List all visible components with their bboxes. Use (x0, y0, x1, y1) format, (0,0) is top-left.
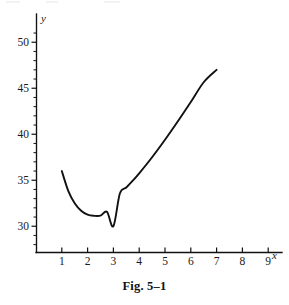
y-axis-label: y (40, 12, 46, 24)
x-tick-label: 4 (136, 255, 142, 267)
x-tick-label: 8 (240, 255, 246, 267)
plot-area: 3035404550 123456789 y x (0, 0, 289, 280)
figure-container: 3035404550 123456789 y x Fig. 5–1 (0, 0, 289, 305)
y-tick-label: 30 (18, 220, 30, 232)
y-tick-label: 40 (18, 128, 30, 140)
axes-group (36, 14, 282, 253)
x-tick-group: 123456789 (59, 248, 271, 267)
x-tick-label: 1 (59, 255, 65, 267)
y-tick-label: 45 (18, 82, 30, 94)
x-tick-label: 2 (85, 255, 91, 267)
x-tick-label: 6 (188, 255, 194, 267)
y-tick-label: 35 (18, 174, 30, 186)
x-tick-label: 7 (214, 255, 220, 267)
data-curve (62, 70, 217, 227)
y-tick-label: 50 (18, 36, 30, 48)
figure-caption: Fig. 5–1 (0, 279, 289, 294)
x-tick-label: 3 (111, 255, 117, 267)
y-tick-group: 3035404550 (18, 33, 37, 245)
x-tick-label: 5 (162, 255, 168, 267)
x-tick-label: 9 (265, 255, 271, 267)
x-axis-label: x (271, 249, 277, 261)
